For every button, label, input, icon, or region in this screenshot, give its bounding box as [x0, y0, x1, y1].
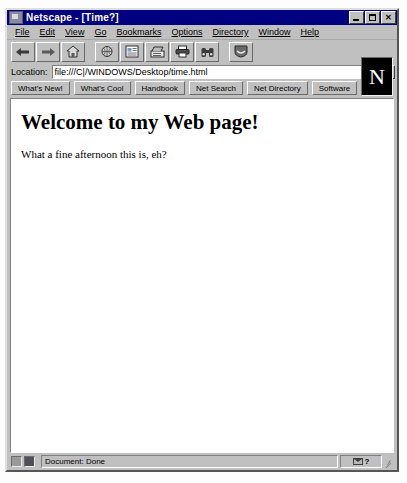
- back-button[interactable]: [11, 42, 35, 62]
- left-arrow-icon: [15, 46, 31, 58]
- menu-help[interactable]: Help: [295, 26, 324, 38]
- reload-button[interactable]: [95, 42, 119, 62]
- location-bar: Location: file:///C|/WINDOWS/Desktop/tim…: [7, 63, 397, 80]
- house-icon: [66, 45, 80, 58]
- net-search-button[interactable]: Net Search: [189, 81, 243, 95]
- help-question-icon[interactable]: ?: [365, 457, 370, 466]
- home-button[interactable]: [61, 42, 85, 62]
- unlocked-padlock-icon[interactable]: [24, 456, 35, 467]
- menu-options[interactable]: Options: [166, 26, 207, 38]
- title-bar[interactable]: Netscape - [Time?] ✕: [7, 10, 397, 25]
- software-button[interactable]: Software: [312, 81, 358, 95]
- location-input[interactable]: file:///C|/WINDOWS/Desktop/time.html: [52, 65, 380, 79]
- directory-button-bar: What's New! What's Cool Handbook Net Sea…: [7, 80, 397, 96]
- binoculars-icon: [200, 46, 215, 58]
- minimize-icon: [353, 19, 359, 21]
- window-title: Netscape - [Time?]: [26, 12, 349, 23]
- images-button[interactable]: [120, 42, 144, 62]
- whats-cool-button[interactable]: What's Cool: [74, 81, 131, 95]
- print-button[interactable]: [170, 42, 194, 62]
- menu-bar: File Edit View Go Bookmarks Options Dire…: [7, 25, 397, 40]
- netscape-browser-window: Netscape - [Time?] ✕ File Edit View Go B…: [5, 8, 399, 472]
- menu-directory[interactable]: Directory: [207, 26, 253, 38]
- stop-button[interactable]: [229, 42, 253, 62]
- maximize-button[interactable]: [365, 11, 380, 24]
- reload-globe-icon: [100, 45, 115, 58]
- mail-envelope-icon[interactable]: [353, 458, 363, 465]
- netscape-document-icon: [9, 11, 23, 24]
- status-message-field: Document: Done: [41, 455, 338, 468]
- find-button[interactable]: [195, 42, 219, 62]
- net-directory-button[interactable]: Net Directory: [247, 81, 308, 95]
- broken-key-icon[interactable]: [11, 456, 22, 467]
- page-paragraph: What a fine afternoon this is, eh?: [21, 148, 383, 160]
- maximize-icon: [369, 14, 376, 21]
- page-heading: Welcome to my Web page!: [21, 111, 383, 134]
- status-message: Document: Done: [45, 457, 105, 466]
- minimize-button[interactable]: [349, 11, 364, 24]
- location-url-text: file:///C|/WINDOWS/Desktop/time.html: [55, 67, 208, 77]
- menu-bookmarks[interactable]: Bookmarks: [111, 26, 166, 38]
- menu-window[interactable]: Window: [253, 26, 295, 38]
- printer-icon: [175, 45, 190, 58]
- netscape-logo-letter: N: [369, 66, 385, 88]
- right-arrow-icon: [40, 46, 56, 58]
- handbook-button[interactable]: Handbook: [135, 81, 185, 95]
- close-button[interactable]: ✕: [381, 11, 396, 24]
- location-label: Location:: [11, 67, 48, 77]
- resize-grip[interactable]: [384, 457, 394, 467]
- navigation-toolbar: [7, 40, 397, 63]
- menu-file[interactable]: File: [10, 26, 35, 38]
- page-content: Welcome to my Web page! What a fine afte…: [10, 98, 394, 453]
- status-bar: Document: Done ?: [7, 453, 397, 470]
- menu-view[interactable]: View: [60, 26, 89, 38]
- forward-button[interactable]: [36, 42, 60, 62]
- images-icon: [125, 45, 139, 58]
- open-button[interactable]: [145, 42, 169, 62]
- menu-go[interactable]: Go: [89, 26, 111, 38]
- status-indicators: ?: [340, 455, 382, 468]
- menu-edit[interactable]: Edit: [35, 26, 61, 38]
- whats-new-button[interactable]: What's New!: [11, 81, 70, 95]
- stop-sign-icon: [234, 45, 248, 58]
- open-page-icon: [150, 46, 165, 58]
- close-icon: ✕: [382, 12, 395, 23]
- window-controls: ✕: [349, 11, 396, 24]
- netscape-logo[interactable]: N: [361, 57, 393, 96]
- content-area-frame: Welcome to my Web page! What a fine afte…: [7, 96, 397, 453]
- screenshot-canvas: Netscape - [Time?] ✕ File Edit View Go B…: [0, 0, 407, 483]
